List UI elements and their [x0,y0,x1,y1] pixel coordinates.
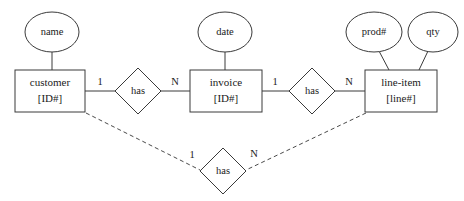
cardinality-customer-has3: 1 [189,149,194,160]
relationship-customer-line-item-label: has [216,165,230,176]
connector-customer-to-has3-dashed [86,113,200,170]
cardinality-has3-lineitem: N [250,148,258,159]
entity-invoice[interactable]: invoice [ID#] [190,70,262,112]
relationship-customer-invoice-label: has [131,85,145,96]
entity-customer-name: customer [30,76,71,88]
cardinality-customer-has1: 1 [97,76,102,87]
entity-customer[interactable]: customer [ID#] [15,70,85,112]
relationship-invoice-line-item[interactable]: has [289,68,335,114]
relationship-customer-line-item[interactable]: has [200,148,246,194]
attribute-prod-label: prod# [362,26,387,37]
attribute-prod[interactable]: prod# [346,12,402,52]
attribute-qty[interactable]: qty [408,12,458,52]
entity-line-item[interactable]: line-item [line#] [365,70,437,112]
connector-lineitem-to-has3-dashed [246,113,366,170]
er-diagram-canvas: name date prod# qty customer [ID#] invoi… [0,0,464,201]
connector-qty-to-lineitem [419,51,428,70]
entity-customer-key: [ID#] [38,92,62,104]
attribute-qty-label: qty [426,26,440,37]
attribute-name-label: name [41,26,64,37]
cardinality-has1-invoice: N [171,76,179,87]
attribute-date-label: date [216,26,234,37]
connector-prod-to-lineitem [379,51,389,70]
attribute-name[interactable]: name [25,12,79,52]
entity-line-item-key: [line#] [386,92,415,104]
cardinality-invoice-has2: 1 [272,76,277,87]
relationship-customer-invoice[interactable]: has [115,68,161,114]
entity-invoice-key: [ID#] [214,92,238,104]
entity-line-item-name: line-item [381,76,421,88]
cardinality-has2-lineitem: N [345,76,353,87]
relationship-invoice-line-item-label: has [305,85,319,96]
attribute-date[interactable]: date [198,12,252,52]
entity-invoice-name: invoice [210,76,242,88]
er-diagram-svg: name date prod# qty customer [ID#] invoi… [0,0,464,201]
